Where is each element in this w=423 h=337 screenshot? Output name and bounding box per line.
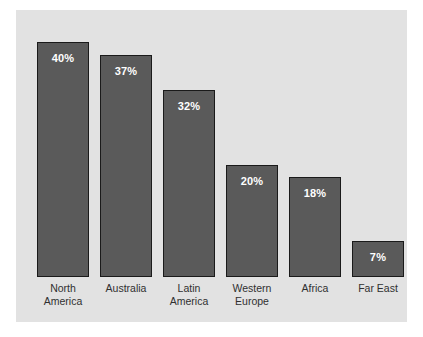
- chart-root: 40% North America 37% Australia 32% Lati…: [0, 0, 423, 337]
- bar-value-label: 32%: [164, 100, 214, 112]
- bar-rect[interactable]: 32%: [163, 90, 215, 277]
- chart-panel: 40% North America 37% Australia 32% Lati…: [16, 10, 407, 322]
- plot-area: 40% North America 37% Australia 32% Lati…: [16, 10, 407, 322]
- bar-value-label: 20%: [227, 175, 277, 187]
- bar-rect[interactable]: 37%: [100, 55, 152, 277]
- bar-rect[interactable]: 7%: [352, 241, 404, 277]
- bar-value-label: 7%: [353, 251, 403, 263]
- bar-category-label: Far East: [341, 282, 415, 295]
- bar-rect[interactable]: 40%: [37, 42, 89, 277]
- bar-value-label: 37%: [101, 65, 151, 77]
- bar-value-label: 40%: [38, 52, 88, 64]
- bar-rect[interactable]: 18%: [289, 177, 341, 277]
- bar-rect[interactable]: 20%: [226, 165, 278, 277]
- bar-value-label: 18%: [290, 187, 340, 199]
